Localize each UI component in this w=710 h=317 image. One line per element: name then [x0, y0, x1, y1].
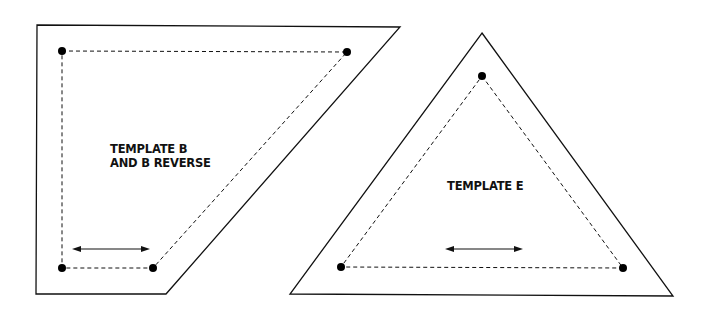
corner-dot [619, 264, 627, 272]
template-e-seam-line [341, 76, 623, 268]
template-e-grain-arrow-icon [445, 246, 523, 252]
corner-dot [149, 264, 157, 272]
corner-dot [58, 264, 66, 272]
quilt-templates-diagram [0, 0, 710, 317]
template-e-label: TEMPLATE E [447, 179, 523, 193]
corner-dot [478, 72, 486, 80]
template-e-label-line-1: TEMPLATE E [447, 179, 523, 193]
corner-dot [58, 47, 66, 55]
template-b-grain-arrow-icon [72, 246, 150, 252]
template-e-group [290, 33, 673, 296]
template-b-label-line-1: TEMPLATE B [110, 142, 211, 156]
corner-dot [343, 48, 351, 56]
corner-dot [337, 263, 345, 271]
template-b-group [36, 25, 400, 294]
template-b-label-line-2: AND B REVERSE [110, 156, 211, 170]
template-b-label: TEMPLATE B AND B REVERSE [110, 142, 211, 170]
template-b-cut-line [36, 25, 400, 294]
